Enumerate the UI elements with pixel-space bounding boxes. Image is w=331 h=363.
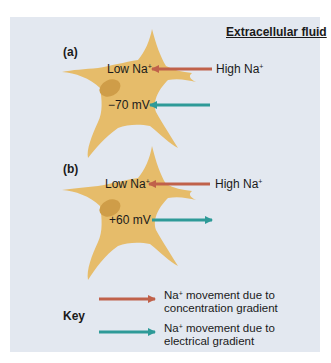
panel-b-low-na: Low Na+	[105, 177, 150, 191]
panel-a-high-na: High Na+	[216, 62, 263, 76]
panel-b-membrane-potential: +60 mV	[109, 213, 151, 227]
key-item-concentration: Na+ movement due to concentration gradie…	[164, 289, 284, 315]
extracellular-fluid-title: Extracellular fluid	[226, 25, 327, 39]
panel-b-high-na: High Na+	[215, 177, 262, 191]
panel-a-label: (a)	[63, 45, 78, 59]
panel-a-membrane-potential: −70 mV	[108, 98, 150, 112]
panel-b-label: (b)	[63, 162, 78, 176]
key-label: Key	[63, 309, 85, 323]
key-item-electrical: Na+ movement due to electrical gradient	[164, 322, 284, 348]
panel-a-low-na: Low Na+	[107, 62, 152, 76]
neuron-cell-a	[62, 29, 196, 158]
